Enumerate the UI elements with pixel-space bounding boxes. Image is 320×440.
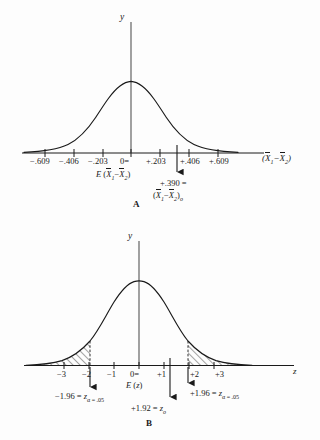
observed-subscript: o	[163, 409, 166, 415]
x2-bar: X	[280, 153, 286, 163]
panel-a-tick-label-2: −.203	[88, 156, 108, 166]
paren-close: )	[139, 380, 142, 390]
panel-b-y-axis-label: y	[128, 231, 132, 241]
panel-a: y −.609 −.406 −.203 0= +.203 +.406 +.609…	[0, 0, 320, 220]
panel-b-tick-label-4: +1	[157, 369, 166, 379]
panel-b-tick-label-3: 0=	[130, 369, 139, 379]
panel-b-left-rejection-region	[20, 330, 100, 370]
panel-b: y −3 −2 −1 0= +1 +2 +3 z E (z) −1.96 = z…	[0, 215, 320, 440]
panel-b-observed-label: +1.92 = zo	[131, 403, 166, 415]
x1-bar: X	[106, 169, 111, 179]
panel-b-tick-label-5: +2	[190, 369, 199, 379]
panel-a-observed-value-line1: +.390 =	[160, 178, 187, 188]
right-critical-value: +1.96 =	[190, 388, 217, 398]
panel-a-tick-label-3: 0=	[120, 156, 129, 166]
left-critical-value: −1.96 =	[55, 391, 82, 401]
x1-bar: X	[156, 190, 161, 200]
panel-b-x-axis-label: z	[293, 366, 297, 376]
panel-b-right-critical-label: +1.96 = zα = .05	[190, 388, 239, 400]
panel-a-caption: A	[133, 199, 140, 209]
paren-close: )	[288, 153, 291, 163]
panel-a-x-axis-label: (X1−X2)	[262, 153, 291, 165]
expectation-symbol: E	[96, 169, 101, 179]
panel-b-caption: B	[146, 418, 152, 428]
panel-a-observed-value-line2: (X1−X2)o	[153, 190, 183, 202]
panel-a-tick-label-6: +.609	[209, 156, 229, 166]
panel-a-y-axis-label: y	[120, 12, 124, 22]
panel-a-mean-label: E (X1−X2)	[96, 169, 130, 181]
x2-bar: X	[169, 190, 174, 200]
panel-b-right-rejection-region	[180, 330, 260, 370]
panel-b-tick-label-1: −2	[82, 369, 91, 379]
panel-a-tick-label-5: +.406	[180, 156, 200, 166]
observed-subscript: o	[180, 196, 183, 202]
x2-bar: X	[119, 169, 124, 179]
panel-b-tick-label-6: +3	[215, 369, 224, 379]
observed-value: +1.92 =	[131, 403, 158, 413]
panel-b-mean-label: E (z)	[126, 380, 142, 390]
panel-b-tick-label-0: −3	[57, 369, 66, 379]
panel-b-left-critical-label: −1.96 = zα = .05	[55, 391, 104, 403]
x1-bar: X	[265, 153, 271, 163]
alpha-subscript: α = .05	[222, 394, 239, 400]
panel-a-tick-label-1: −.406	[59, 156, 79, 166]
paren-close: )	[127, 169, 130, 179]
alpha-subscript: α = .05	[87, 397, 104, 403]
panel-b-tick-label-2: −1	[107, 369, 116, 379]
expectation-symbol: E	[126, 380, 131, 390]
panel-a-tick-label-4: +.203	[146, 156, 166, 166]
statistics-figure: y −.609 −.406 −.203 0= +.203 +.406 +.609…	[0, 0, 320, 440]
panel-a-tick-label-0: −.609	[30, 156, 50, 166]
